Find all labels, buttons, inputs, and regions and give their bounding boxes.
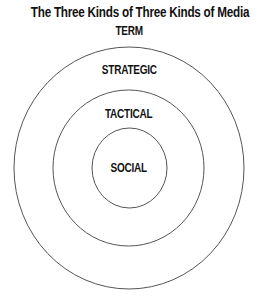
- term-heading: TERM: [0, 24, 258, 38]
- concentric-rings: [0, 0, 258, 305]
- ring-label-tactical-text: TACTICAL: [105, 107, 152, 121]
- diagram-title: The Three Kinds of Three Kinds of Media: [0, 3, 258, 20]
- ring-label-social-text: SOCIAL: [111, 161, 147, 175]
- ring-label-strategic-text: STRATEGIC: [102, 63, 157, 77]
- diagram-title-text: The Three Kinds of Three Kinds of Media: [31, 3, 249, 20]
- ring-label-tactical: TACTICAL: [0, 107, 258, 121]
- ring-label-strategic: STRATEGIC: [0, 63, 258, 77]
- ring-label-social: SOCIAL: [0, 161, 258, 175]
- term-heading-text: TERM: [115, 24, 142, 38]
